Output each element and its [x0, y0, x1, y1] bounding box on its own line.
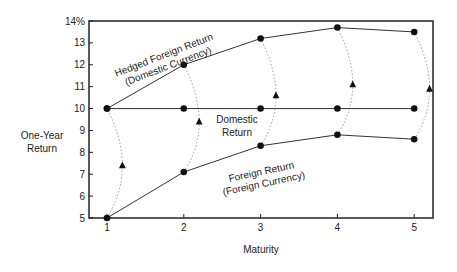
x-axis-title: Maturity: [243, 244, 279, 255]
circle-marker-icon: [411, 29, 418, 36]
circle-marker-icon: [334, 24, 341, 31]
y-tick-label: 11: [75, 81, 86, 92]
y-tick-label: 10: [74, 103, 86, 114]
circle-marker-icon: [334, 132, 341, 139]
x-tick-label: 5: [411, 222, 417, 233]
dotted-arc: [184, 65, 199, 172]
circle-marker-icon: [104, 105, 111, 112]
x-tick-label: 1: [104, 222, 110, 233]
domestic-label-line1: Domestic: [216, 114, 258, 125]
y-tick-label: 14%: [65, 16, 85, 27]
circle-marker-icon: [181, 105, 188, 112]
circle-marker-icon: [257, 35, 264, 42]
foreign-annotation: Foreign Return (Foreign Currency): [219, 157, 306, 197]
hedged-annotation: Hedged Foreign Return (Domestic Currency…: [113, 31, 219, 90]
circle-marker-icon: [334, 105, 341, 112]
domestic-label-line2: Return: [222, 127, 252, 138]
chart: 567891011121314% 12345 One-Year Return M…: [0, 0, 457, 272]
x-axis-ticks: 12345: [104, 214, 417, 233]
x-tick-label: 2: [181, 222, 187, 233]
y-tick-label: 8: [79, 147, 85, 158]
circle-marker-icon: [104, 215, 111, 222]
dotted-arc: [414, 32, 429, 139]
y-tick-label: 9: [79, 125, 85, 136]
y-axis-title-line1: One-Year: [21, 130, 64, 141]
x-tick-label: 4: [335, 222, 341, 233]
dotted-arc: [337, 28, 352, 135]
triangle-marker-icon: [426, 85, 433, 92]
dotted-arc: [261, 39, 276, 146]
triangle-marker-icon: [119, 161, 126, 168]
triangle-marker-icon: [349, 80, 356, 87]
y-tick-label: 12: [74, 59, 86, 70]
circle-marker-icon: [257, 105, 264, 112]
domestic-annotation: Domestic Return: [216, 114, 258, 138]
x-tick-label: 3: [258, 222, 264, 233]
circle-marker-icon: [257, 142, 264, 149]
circle-marker-icon: [411, 136, 418, 143]
y-tick-label: 6: [79, 191, 85, 202]
circle-marker-icon: [181, 169, 188, 176]
triangle-marker-icon: [273, 91, 280, 98]
circle-marker-icon: [411, 105, 418, 112]
y-tick-label: 7: [79, 169, 85, 180]
dotted-arc: [107, 109, 122, 218]
y-tick-label: 13: [74, 37, 86, 48]
y-axis-title-line2: Return: [27, 143, 57, 154]
triangle-marker-icon: [196, 118, 203, 125]
y-tick-label: 5: [79, 213, 85, 224]
